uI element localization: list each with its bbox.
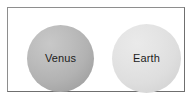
figure-canvas: Venus Earth: [0, 0, 193, 104]
planet-venus-circle: Venus: [27, 25, 94, 92]
planet-earth-circle: Earth: [112, 24, 181, 93]
planet-earth-label: Earth: [133, 53, 160, 64]
planet-venus-label: Venus: [45, 53, 76, 64]
figure-frame-border: Venus Earth: [7, 7, 185, 92]
